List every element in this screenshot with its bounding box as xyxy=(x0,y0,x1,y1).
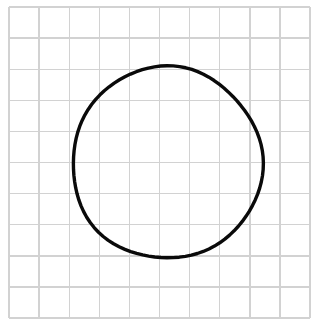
grid-and-circle-canvas xyxy=(0,0,322,334)
figure-root xyxy=(0,0,322,334)
figure-background xyxy=(0,0,322,334)
